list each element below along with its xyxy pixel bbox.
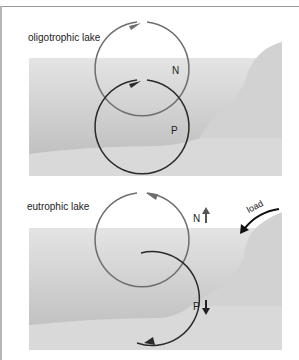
cycle-arrowhead-icon — [146, 193, 158, 200]
panel-title: eutrophic lake — [27, 201, 90, 212]
n-cycle-label: N — [193, 213, 200, 224]
p-cycle-label: P — [171, 125, 178, 136]
eutrophic-panel: eutrophic lake N P load — [27, 193, 282, 350]
n-cycle-label: N — [172, 65, 179, 76]
oligotrophic-panel: oligotrophic lake N P — [28, 22, 282, 176]
p-cycle-label: P — [193, 301, 200, 312]
cycle-arrowhead-icon — [129, 23, 141, 30]
arrow-up-icon — [202, 207, 210, 223]
lake-nutrient-diagram: oligotrophic lake N P eutrophic lake N P — [0, 0, 299, 360]
load-label: load — [245, 198, 265, 215]
panel-title: oligotrophic lake — [28, 32, 101, 43]
